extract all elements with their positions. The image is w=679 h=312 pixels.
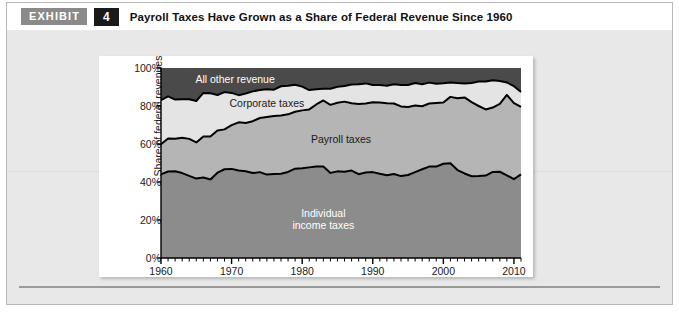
exhibit-screenshot: EXHIBIT 4 Payroll Taxes Have Grown as a …	[0, 0, 679, 312]
band-label-payroll-taxes: Payroll taxes	[311, 133, 371, 145]
band-label-all-other-revenue: All other revenue	[195, 73, 274, 85]
exhibit-badge: EXHIBIT	[21, 8, 87, 25]
x-axis-tick-label: 1990	[361, 265, 384, 277]
x-axis-tick-label: 1970	[220, 265, 243, 277]
x-axis-tick-label: 1980	[290, 265, 313, 277]
chart-card: Share of federal revenues 0%20%40%60%80%…	[99, 56, 533, 277]
exhibit-header: EXHIBIT 4 Payroll Taxes Have Grown as a …	[7, 3, 672, 30]
exhibit-number-badge: 4	[94, 8, 119, 26]
x-axis-tick-label: 2010	[502, 265, 525, 277]
band-label-individual-income-taxes: Individualincome taxes	[292, 207, 354, 231]
x-axis-tick-label: 2000	[432, 265, 455, 277]
exhibit-body-panel: Share of federal revenues 0%20%40%60%80%…	[7, 31, 672, 304]
exhibit-title: Payroll Taxes Have Grown as a Share of F…	[130, 11, 513, 23]
panel-divider-line	[19, 286, 660, 288]
band-label-corporate-taxes: Corporate taxes	[230, 97, 305, 109]
x-axis-tick-label: 1960	[149, 265, 172, 277]
x-axis-tick-labels: 196019701980199020002010	[99, 56, 533, 277]
